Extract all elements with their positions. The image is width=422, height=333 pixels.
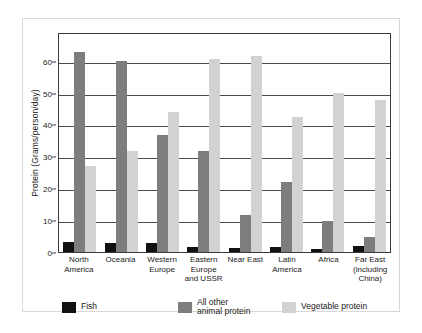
x-axis-label: Oceania — [100, 255, 142, 299]
x-axis-label: LatinAmerica — [266, 255, 308, 299]
bar — [292, 117, 303, 252]
chart-page: Protein (Grams/person/day) 0102030405060… — [0, 0, 422, 333]
bar — [63, 242, 74, 252]
bar — [105, 243, 116, 252]
bar — [74, 52, 85, 252]
legend-swatch — [282, 302, 296, 313]
bar — [364, 237, 375, 252]
bar-group — [142, 34, 183, 252]
bar-group — [307, 34, 348, 252]
x-axis-label: WesternEurope — [141, 255, 183, 299]
bar-group — [100, 34, 141, 252]
y-tick-label-40: 40 — [43, 121, 52, 130]
legend-label: Vegetable protein — [301, 302, 367, 312]
bar — [281, 182, 292, 252]
bar — [240, 215, 251, 252]
y-tick-mark-40 — [52, 125, 56, 126]
y-tick-label-20: 20 — [43, 185, 52, 194]
x-axis-label: NorthAmerica — [58, 255, 100, 299]
bar-group — [266, 34, 307, 252]
bar — [375, 100, 386, 252]
legend-label: All otheranimal protein — [197, 298, 250, 317]
bar — [251, 56, 262, 252]
bar-group — [59, 34, 100, 252]
chart-legend: FishAll otheranimal proteinVegetable pro… — [62, 296, 392, 318]
y-tick-mark-50 — [52, 93, 56, 94]
x-axis-label: Africa — [308, 255, 350, 299]
y-tick-mark-60 — [52, 61, 56, 62]
bar — [146, 243, 157, 252]
bar — [322, 221, 333, 252]
bar — [85, 166, 96, 252]
bar-groups — [59, 34, 390, 252]
legend-item: Vegetable protein — [282, 302, 367, 313]
bar-group — [183, 34, 224, 252]
bar — [311, 249, 322, 252]
bar — [157, 135, 168, 252]
x-axis-label: Near East — [225, 255, 267, 299]
legend-swatch — [62, 302, 76, 313]
bar — [198, 151, 209, 252]
bar — [168, 112, 179, 252]
y-tick-mark-0 — [52, 253, 56, 254]
legend-swatch — [178, 302, 192, 313]
x-axis-label: Far East(includingChina) — [349, 255, 391, 299]
y-tick-mark-30 — [52, 157, 56, 158]
bar-group — [225, 34, 266, 252]
bar — [270, 247, 281, 252]
legend-item: Fish — [62, 302, 178, 313]
x-axis-labels: NorthAmericaOceaniaWesternEuropeEasternE… — [58, 255, 391, 299]
x-axis-label: EasternEuropeand USSR — [183, 255, 225, 299]
bar-group — [349, 34, 390, 252]
y-axis-ticks: 0102030405060 — [0, 33, 56, 253]
legend-item: All otheranimal protein — [178, 298, 282, 317]
bar — [353, 246, 364, 252]
plot-area — [58, 33, 391, 253]
bar — [209, 59, 220, 252]
bar — [127, 151, 138, 252]
y-tick-label-30: 30 — [43, 153, 52, 162]
y-tick-label-50: 50 — [43, 89, 52, 98]
y-tick-mark-20 — [52, 189, 56, 190]
bar — [229, 248, 240, 252]
bar — [333, 93, 344, 252]
bar — [187, 247, 198, 252]
y-tick-label-60: 60 — [43, 57, 52, 66]
y-tick-mark-10 — [52, 221, 56, 222]
y-tick-label-10: 10 — [43, 217, 52, 226]
bar — [116, 61, 127, 252]
legend-label: Fish — [81, 302, 97, 312]
